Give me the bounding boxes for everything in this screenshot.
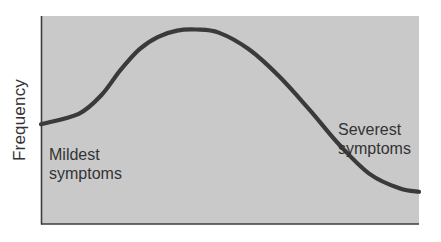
- annotation-severest-symptoms: Severest symptoms: [338, 120, 411, 158]
- y-axis-label: Frequency: [2, 60, 38, 180]
- annotation-mildest-line2: symptoms: [49, 164, 122, 183]
- y-axis-label-text: Frequency: [10, 79, 30, 161]
- annotation-severest-line1: Severest: [338, 120, 411, 139]
- annotation-mildest-symptoms: Mildest symptoms: [49, 145, 122, 183]
- frequency-chart: Frequency Mildest symptoms Severest symp…: [0, 0, 441, 242]
- annotation-mildest-line1: Mildest: [49, 145, 122, 164]
- annotation-severest-line2: symptoms: [338, 139, 411, 158]
